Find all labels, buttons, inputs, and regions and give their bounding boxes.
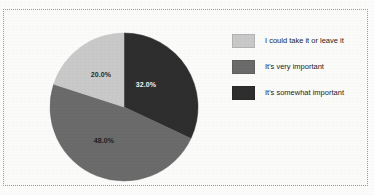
legend-item-very-important[interactable]: It's very important: [232, 60, 362, 74]
legend-item-take-or-leave[interactable]: I could take it or leave it: [232, 34, 362, 48]
legend-item-somewhat-important[interactable]: It's somewhat important: [232, 86, 362, 100]
pie-plot-area: 32.0% 48.0% 20.0%: [49, 32, 199, 182]
legend-swatch-somewhat-important: [232, 86, 255, 100]
legend-label-somewhat-important: It's somewhat important: [265, 89, 344, 97]
pie-slice-label-somewhat-important: 32.0%: [136, 81, 156, 88]
pie-chart-figure: 32.0% 48.0% 20.0% I could take it or lea…: [0, 0, 374, 195]
pie-svg: [49, 32, 199, 182]
legend-swatch-very-important: [232, 60, 255, 74]
pie-slice-label-very-important: 48.0%: [94, 137, 114, 144]
plot-frame: 32.0% 48.0% 20.0% I could take it or lea…: [3, 9, 368, 186]
legend-label-take-or-leave: I could take it or leave it: [265, 37, 344, 45]
legend-swatch-take-or-leave: [232, 34, 255, 48]
chart-legend: I could take it or leave it It's very im…: [232, 34, 362, 112]
legend-label-very-important: It's very important: [265, 63, 324, 71]
pie-slice-label-take-or-leave: 20.0%: [91, 71, 111, 78]
